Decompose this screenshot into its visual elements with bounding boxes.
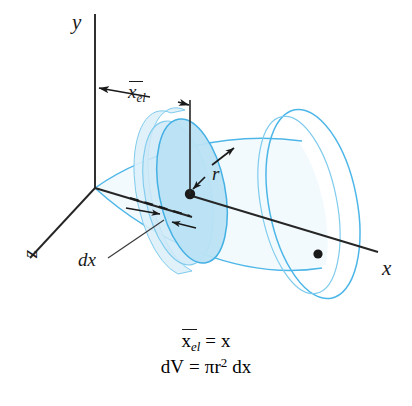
x-axis-label: x (382, 258, 391, 279)
equation-volume: dV=πr2dx (0, 355, 412, 378)
eq2-relation: = (189, 356, 200, 377)
eq2-lhs: dV (161, 356, 184, 377)
eq1-lhs-subscript: el (191, 339, 200, 354)
cone-volume-element-figure: y x z xel r dx xel=x dV=πr2dx (0, 0, 412, 406)
eq1-lhs-base: x (181, 330, 191, 351)
radius-label: r (212, 164, 219, 183)
eq1-relation: = (205, 330, 216, 351)
y-axis-label: y (72, 12, 81, 33)
z-axis (30, 188, 95, 258)
xel-arrow-right (178, 102, 189, 105)
eq2-exponent: 2 (221, 355, 227, 370)
xel-label-subscript: el (136, 90, 145, 105)
cone-solid (95, 101, 375, 306)
eq2-differential: dx (232, 356, 251, 377)
eq1-rhs: x (221, 330, 231, 351)
equation-centroid: xel=x (0, 330, 412, 355)
xel-dimension-label: xel (128, 82, 146, 105)
z-axis-label: z (20, 250, 41, 258)
thickness-label: dx (78, 250, 96, 269)
centroid-dot (313, 249, 322, 258)
eq2-pi-symbol: π (205, 356, 215, 377)
